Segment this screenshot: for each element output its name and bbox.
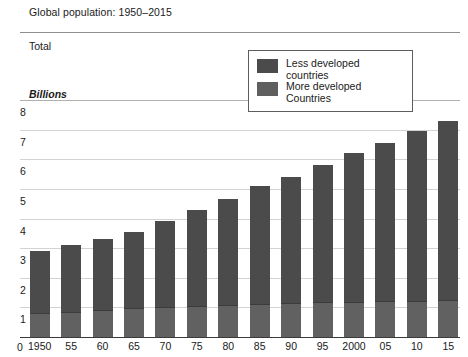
y-axis-unit-label: Billions — [29, 88, 67, 100]
bar-segment-more-developed — [313, 302, 333, 337]
bar-1950 — [30, 251, 50, 337]
bar-segment-more-developed — [281, 303, 301, 337]
bar-90 — [281, 177, 301, 337]
bar-segment-less-developed — [30, 251, 50, 313]
bar-10 — [407, 131, 427, 337]
legend-item-label: Less developedcountries — [286, 58, 360, 81]
bar-segment-more-developed — [344, 302, 364, 337]
x-tick-10: 10 — [411, 341, 423, 352]
x-tick-55: 55 — [65, 341, 77, 352]
bar-segment-less-developed — [218, 199, 238, 305]
bar-55 — [61, 245, 81, 337]
x-tick-2000: 2000 — [342, 341, 365, 352]
x-tick-85: 85 — [254, 341, 266, 352]
x-tick-15: 15 — [442, 341, 454, 352]
bar-segment-more-developed — [218, 305, 238, 337]
bar-60 — [93, 239, 113, 337]
bar-segment-more-developed — [30, 313, 50, 337]
bar-segment-less-developed — [281, 177, 301, 303]
x-tick-60: 60 — [97, 341, 109, 352]
bar-segment-less-developed — [407, 131, 427, 300]
bar-segment-more-developed — [407, 301, 427, 337]
x-tick-75: 75 — [191, 341, 203, 352]
bar-95 — [313, 165, 333, 337]
bar-segment-less-developed — [61, 245, 81, 311]
bar-segment-more-developed — [187, 306, 207, 337]
bar-70 — [155, 221, 175, 337]
bar-05 — [375, 143, 395, 337]
bar-segment-more-developed — [61, 312, 81, 337]
bar-segment-less-developed — [313, 165, 333, 302]
bar-segment-less-developed — [93, 239, 113, 310]
x-tick-95: 95 — [317, 341, 329, 352]
bar-2000 — [344, 153, 364, 337]
legend-swatch-less-developed — [257, 59, 278, 73]
legend-item: Less developedcountries — [257, 58, 404, 81]
legend-item: More developedCountries — [257, 81, 404, 104]
bar-segment-less-developed — [155, 221, 175, 307]
legend-item-label: More developedCountries — [286, 81, 361, 104]
bar-75 — [187, 210, 207, 337]
bar-segment-less-developed — [438, 121, 458, 300]
legend-swatch-more-developed — [257, 82, 278, 96]
bar-segment-less-developed — [344, 153, 364, 301]
bar-segment-more-developed — [124, 308, 144, 337]
x-tick-90: 90 — [285, 341, 297, 352]
population-bar-chart: Global population: 1950–2015 Total Billi… — [0, 0, 468, 357]
bar-85 — [250, 186, 270, 337]
bar-segment-more-developed — [438, 300, 458, 337]
bar-segment-less-developed — [124, 232, 144, 308]
header-divider-top — [20, 32, 460, 33]
bar-group — [20, 100, 460, 337]
bar-80 — [218, 199, 238, 337]
x-tick-1950: 1950 — [28, 341, 51, 352]
bar-segment-less-developed — [375, 143, 395, 301]
x-tick-65: 65 — [128, 341, 140, 352]
x-tick-70: 70 — [160, 341, 172, 352]
bar-segment-more-developed — [375, 301, 395, 337]
bar-segment-more-developed — [250, 304, 270, 337]
x-axis-line — [20, 337, 460, 338]
bar-segment-less-developed — [250, 186, 270, 304]
series-band-label: Total — [29, 40, 51, 52]
x-axis-origin-label: 0 — [17, 341, 23, 353]
x-tick-80: 80 — [222, 341, 234, 352]
x-tick-05: 05 — [380, 341, 392, 352]
bar-segment-more-developed — [155, 307, 175, 337]
chart-legend: Less developedcountriesMore developedCou… — [248, 50, 413, 112]
bar-segment-more-developed — [93, 310, 113, 337]
bar-15 — [438, 121, 458, 337]
bar-65 — [124, 232, 144, 337]
bar-segment-less-developed — [187, 210, 207, 306]
plot-area: 87654321 — [20, 100, 460, 337]
chart-title: Global population: 1950–2015 — [29, 6, 172, 18]
